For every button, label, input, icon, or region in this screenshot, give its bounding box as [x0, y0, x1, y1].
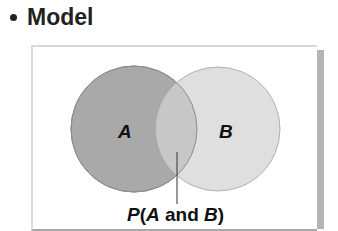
set-b-label: B — [219, 121, 233, 142]
intersection-label: P(A and B) — [127, 204, 224, 225]
set-a-label: A — [117, 121, 132, 142]
venn-diagram: A B P(A and B) — [0, 0, 338, 231]
